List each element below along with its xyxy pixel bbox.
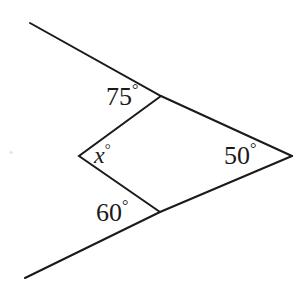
angle-label-60: 60° bbox=[96, 198, 128, 226]
angle-label-75: 75° bbox=[106, 82, 138, 110]
angle-label-60-value: 60 bbox=[96, 198, 122, 227]
lower-ray-line bbox=[25, 156, 292, 278]
angle-label-50: 50° bbox=[224, 141, 256, 169]
scan-artifact-speck bbox=[9, 151, 13, 154]
inner-vertex-lines bbox=[79, 96, 161, 212]
angle-label-x: x° bbox=[94, 142, 111, 167]
degree-symbol-icon: ° bbox=[250, 140, 256, 157]
geometry-diagram: 75° x° 60° 50° bbox=[0, 0, 306, 292]
degree-symbol-icon: ° bbox=[105, 141, 111, 157]
upper-ray-line bbox=[30, 23, 292, 156]
degree-symbol-icon: ° bbox=[132, 81, 138, 98]
diagram-canvas bbox=[0, 0, 306, 292]
angle-label-x-value: x bbox=[94, 142, 105, 168]
angle-label-75-value: 75 bbox=[106, 82, 132, 111]
angle-label-50-value: 50 bbox=[224, 141, 250, 170]
degree-symbol-icon: ° bbox=[122, 197, 128, 214]
